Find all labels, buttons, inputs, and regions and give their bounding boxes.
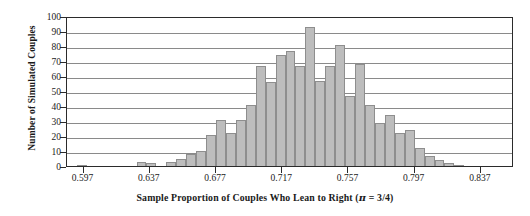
y-axis-tick: 20 [31, 132, 61, 142]
x-axis-tick-mark [215, 167, 216, 173]
histogram-bar [286, 51, 296, 167]
y-axis-tick-mark [60, 137, 66, 138]
histogram-bar [405, 130, 415, 166]
y-axis-tick-mark [60, 32, 66, 33]
x-axis-tick-mark [480, 167, 481, 173]
y-axis-tick-mark [60, 107, 66, 108]
x-axis-tick-mark [347, 167, 348, 173]
histogram-bar [166, 162, 176, 167]
y-axis-tick: 30 [31, 117, 61, 127]
x-axis-tick: 0.677 [204, 173, 225, 184]
histogram-bar [246, 105, 256, 167]
x-axis-tick-mark [83, 167, 84, 173]
histogram-bar [186, 154, 196, 166]
x-axis-tick: 0.757 [337, 173, 358, 184]
histogram-bar [335, 45, 345, 167]
histogram-bar [266, 82, 276, 166]
histogram-bar [256, 66, 266, 167]
x-axis-tick: 0.797 [403, 173, 424, 184]
histogram-bar [425, 156, 435, 167]
x-axis-label: Sample Proportion of Couples Who Lean to… [0, 192, 530, 203]
y-axis-tick-mark [60, 77, 66, 78]
y-axis-tick: 100 [31, 12, 61, 22]
histogram-bar [305, 27, 315, 167]
histogram-bar [395, 133, 405, 166]
histogram-bar [325, 66, 335, 167]
x-axis-tick: 0.717 [271, 173, 292, 184]
pi-symbol: π [359, 192, 366, 203]
x-axis-tick-mark [149, 167, 150, 173]
histogram-bar [146, 163, 156, 166]
histogram-bar [137, 162, 147, 167]
y-axis-tick: 10 [31, 147, 61, 157]
histogram-bar [206, 135, 216, 167]
histogram-bar [295, 66, 305, 167]
y-axis-tick: 90 [31, 27, 61, 37]
y-axis-tick-mark [60, 62, 66, 63]
histogram-bar [216, 120, 226, 167]
y-axis-tick-mark [60, 122, 66, 123]
y-axis-tick: 80 [31, 42, 61, 52]
x-axis-tick: 0.637 [138, 173, 159, 184]
y-axis-tick-mark [60, 167, 66, 168]
y-axis-tick-mark [60, 152, 66, 153]
histogram-bar [196, 151, 206, 166]
histogram-bar [454, 165, 464, 167]
y-axis-tick: 0 [31, 162, 61, 172]
histogram-bar [435, 160, 445, 166]
x-axis-tick-mark [414, 167, 415, 173]
y-axis-tick: 50 [31, 87, 61, 97]
x-axis-tick-mark [281, 167, 282, 173]
histogram-bar [375, 123, 385, 167]
plot-area [66, 17, 513, 167]
histogram-bar [276, 55, 286, 166]
histogram-bar [77, 165, 87, 167]
histogram-figure: Number of Simulated Couples 100908070605… [0, 0, 530, 216]
x-axis-tick: 0.837 [469, 173, 490, 184]
gridline [67, 33, 512, 34]
y-axis-tick-mark [60, 17, 66, 18]
y-axis-tick-labels: 1009080706050403020100 [31, 0, 61, 216]
histogram-bar [415, 148, 425, 166]
gridline [67, 48, 512, 49]
y-axis-tick-mark [60, 47, 66, 48]
histogram-bar [226, 133, 236, 166]
histogram-bar [365, 105, 375, 167]
histogram-bar [315, 81, 325, 167]
histogram-bar [385, 115, 395, 166]
histogram-bar [236, 120, 246, 167]
x-axis-tick: 0.597 [72, 173, 93, 184]
histogram-bar [345, 96, 355, 167]
y-axis-tick: 70 [31, 57, 61, 67]
y-axis-tick: 60 [31, 72, 61, 82]
y-axis-tick-mark [60, 92, 66, 93]
histogram-bar [355, 64, 365, 166]
y-axis-tick: 40 [31, 102, 61, 112]
histogram-bar [444, 163, 454, 166]
histogram-bar [176, 159, 186, 167]
